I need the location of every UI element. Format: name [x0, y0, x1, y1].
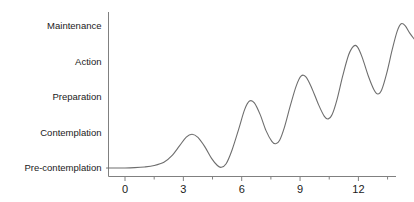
x-axis-tick-label: 0 — [122, 183, 128, 195]
axis-lines-group — [109, 12, 397, 177]
y-axis-tick-label: Contemplation — [40, 127, 101, 138]
x-axis-tick-label: 9 — [297, 183, 303, 195]
chart-figure: Pre-contemplationContemplationPreparatio… — [0, 0, 414, 202]
y-axis-tick-label: Action — [75, 56, 101, 67]
y-axis-tick-label: Preparation — [52, 91, 101, 102]
x-axis-tick-label: 6 — [239, 183, 245, 195]
x-axis-tick-label: 3 — [180, 183, 186, 195]
change-curve-line — [107, 23, 414, 168]
x-axis-tick-label: 12 — [352, 183, 364, 195]
y-axis-tick-label: Maintenance — [47, 20, 101, 31]
stages-of-change-chart: Pre-contemplationContemplationPreparatio… — [0, 0, 414, 202]
tick-marks-group — [125, 177, 388, 182]
y-axis-label-group: Pre-contemplationContemplationPreparatio… — [24, 20, 101, 173]
y-axis-tick-label: Pre-contemplation — [24, 162, 101, 173]
x-axis-label-group: 036912 — [122, 183, 365, 195]
